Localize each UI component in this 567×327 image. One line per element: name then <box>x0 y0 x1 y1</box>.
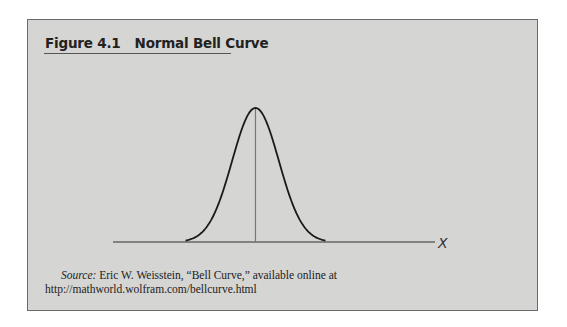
source-note: Source: Eric W. Weisstein, “Bell Curve,”… <box>45 268 525 296</box>
x-axis-label: X <box>437 235 448 251</box>
source-label: Source: <box>61 269 96 281</box>
figure-box: Figure 4.1Normal Bell Curve X Source: Er… <box>27 19 538 311</box>
